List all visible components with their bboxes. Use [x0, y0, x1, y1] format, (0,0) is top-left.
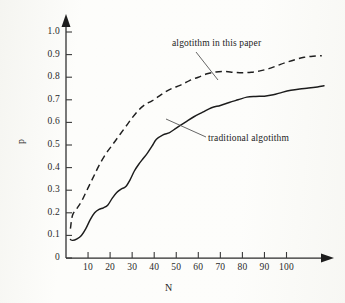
- y-axis-tick-label: 1.0: [22, 26, 60, 36]
- figure-canvas: 00.10.20.30.40.50.60.70.80.91.0 10203040…: [0, 0, 345, 303]
- y-axis-tick-label: 0.1: [22, 229, 60, 239]
- y-axis-tick-label: 0.8: [22, 71, 60, 81]
- y-axis-tick-label: 0.4: [22, 162, 60, 172]
- y-axis-arrowhead: [62, 14, 71, 27]
- x-axis-arrowhead: [321, 254, 334, 263]
- leader-line-upper: [196, 52, 218, 80]
- x-axis-tick-label: 100: [273, 262, 301, 272]
- x-axis-title: N: [165, 282, 172, 293]
- y-axis-tick-label: 0: [22, 252, 60, 262]
- y-axis-tick-label: 0.7: [22, 94, 60, 104]
- x-axis-ticks: [88, 252, 286, 258]
- annotation-traditional-algorithm: traditional algotithm: [208, 133, 289, 143]
- y-axis-tick-label: 0.2: [22, 207, 60, 217]
- annotation-algorithm-in-this-paper: algotithm in this paper: [172, 38, 261, 48]
- series-line-traditional-algorithm: [70, 86, 324, 241]
- y-axis-tick-label: 0.5: [22, 139, 60, 149]
- y-axis-tick-label: 0.6: [22, 116, 60, 126]
- y-axis-tick-label: 0.3: [22, 184, 60, 194]
- y-axis-tick-label: 0.9: [22, 49, 60, 59]
- y-axis-title: p: [15, 139, 26, 144]
